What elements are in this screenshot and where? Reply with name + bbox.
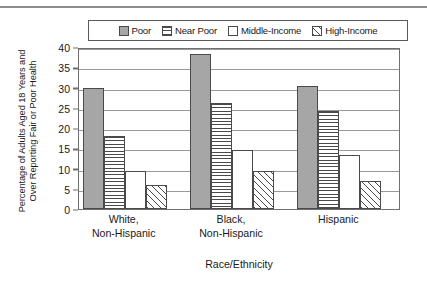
bar-group xyxy=(297,49,381,209)
legend-item-poor: Poor xyxy=(119,26,151,36)
bar xyxy=(83,88,104,210)
bar-groups xyxy=(79,49,399,209)
y-tick-5: 5 xyxy=(0,184,78,195)
legend-label-poor: Poor xyxy=(132,26,151,36)
y-tick-label-35: 35 xyxy=(58,63,70,74)
legend-swatch-poor xyxy=(119,26,129,36)
bar xyxy=(104,136,125,209)
bar-group xyxy=(83,49,167,209)
legend-swatch-near-poor xyxy=(162,26,172,36)
y-tick-label-40: 40 xyxy=(58,43,70,54)
bar-group xyxy=(190,49,274,209)
bar xyxy=(125,171,146,209)
bar xyxy=(190,54,211,209)
y-tick-label-30: 30 xyxy=(58,83,70,94)
legend-label-near-poor: Near Poor xyxy=(175,26,217,36)
y-tick-15: 15 xyxy=(0,144,78,155)
y-tick-label-20: 20 xyxy=(58,124,70,135)
bar xyxy=(360,181,381,209)
x-axis-category-labels: White,Non-HispanicBlack,Non-HispanicHisp… xyxy=(78,213,400,247)
y-tick-40: 40 xyxy=(0,43,78,54)
legend-item-near-poor: Near Poor xyxy=(162,26,217,36)
y-tick-label-5: 5 xyxy=(64,184,70,195)
x-axis-label-line: Hispanic xyxy=(274,213,402,227)
legend-swatch-high-income xyxy=(312,26,322,36)
plot-area xyxy=(78,48,400,210)
legend-label-high-income: High-Income xyxy=(325,26,377,36)
chart-figure: Percentage of Adults Aged 18 Years and O… xyxy=(0,0,427,288)
y-tick-20: 20 xyxy=(0,124,78,135)
y-tick-25: 25 xyxy=(0,103,78,114)
bar xyxy=(211,103,232,209)
x-axis-label: Hispanic xyxy=(274,213,402,227)
y-tick-35: 35 xyxy=(0,63,78,74)
legend-swatch-middle-income xyxy=(228,26,238,36)
top-rule-divider xyxy=(0,6,427,8)
x-axis-label-line: Non-Hispanic xyxy=(167,227,295,241)
bar xyxy=(253,171,274,209)
y-tick-label-25: 25 xyxy=(58,103,70,114)
bar xyxy=(146,185,167,209)
legend-item-high-income: High-Income xyxy=(312,26,377,36)
y-tick-label-15: 15 xyxy=(58,144,70,155)
chart-legend: Poor Near Poor Middle-Income High-Income xyxy=(88,20,408,41)
legend-item-middle-income: Middle-Income xyxy=(228,26,301,36)
bar xyxy=(339,155,360,209)
legend-label-middle-income: Middle-Income xyxy=(241,26,301,36)
bar xyxy=(318,111,339,209)
bar xyxy=(297,86,318,209)
y-tick-label-10: 10 xyxy=(58,164,70,175)
y-tick-10: 10 xyxy=(0,164,78,175)
bar xyxy=(232,150,253,209)
y-tick-30: 30 xyxy=(0,83,78,94)
x-axis-title: Race/Ethnicity xyxy=(78,258,400,270)
